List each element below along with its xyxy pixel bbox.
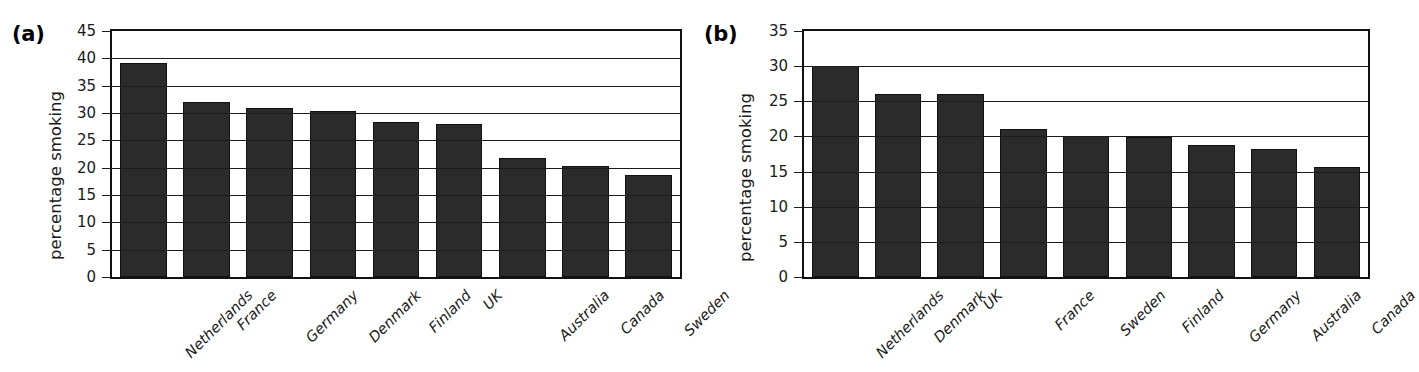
- y-axis-tick-mark: [102, 277, 110, 278]
- bar[interactable]: [246, 108, 293, 277]
- x-axis-label-slot: Netherlands: [802, 281, 865, 371]
- bar[interactable]: [120, 63, 167, 277]
- y-axis-tick-mark: [102, 140, 110, 141]
- gridline: [112, 58, 680, 59]
- gridline: [804, 242, 1368, 243]
- y-axis-tick-mark: [102, 113, 110, 114]
- panel-b-tag: (b): [704, 22, 737, 46]
- gridline: [112, 195, 680, 196]
- panel-a: (a) percentage smoking 05101520253035404…: [0, 0, 694, 372]
- y-axis-tick-mark: [794, 277, 802, 278]
- bar-slot: [1243, 31, 1306, 277]
- gridline: [112, 250, 680, 251]
- x-axis-label-slot: Australia: [491, 281, 555, 371]
- x-axis-label-slot: UK: [428, 281, 492, 371]
- y-axis-tick-mark: [794, 31, 802, 32]
- y-axis-tick-label: 30: [58, 104, 96, 122]
- x-axis-label-slot: Netherlands: [110, 281, 174, 371]
- y-axis-tick-label: 35: [750, 22, 788, 40]
- bar[interactable]: [625, 175, 672, 277]
- bar[interactable]: [937, 94, 983, 277]
- bar-slot: [1117, 31, 1180, 277]
- panel-a-plot-area: [110, 29, 682, 279]
- y-axis-tick-label: 15: [750, 163, 788, 181]
- y-axis-tick-label: 5: [750, 233, 788, 251]
- x-axis-category-label: Canada: [1368, 287, 1418, 337]
- y-axis-tick-mark: [102, 250, 110, 251]
- panel-a-bar-group: [112, 31, 680, 277]
- y-axis-tick-mark: [794, 66, 802, 67]
- y-axis-tick-label: 25: [750, 92, 788, 110]
- bar[interactable]: [1188, 145, 1234, 277]
- x-axis-label-slot: Finland: [1118, 281, 1181, 371]
- y-axis-tick-label: 35: [58, 77, 96, 95]
- gridline: [804, 101, 1368, 102]
- bar-slot: [112, 31, 175, 277]
- x-axis-label-slot: Germany: [1181, 281, 1244, 371]
- x-axis-label-slot: Sweden: [618, 281, 682, 371]
- y-axis-tick-label: 10: [58, 213, 96, 231]
- y-axis-tick-mark: [102, 58, 110, 59]
- bar-slot: [428, 31, 491, 277]
- panel-a-tag: (a): [12, 22, 44, 46]
- bar-slot: [364, 31, 427, 277]
- bar-slot: [992, 31, 1055, 277]
- gridline: [804, 66, 1368, 67]
- bar-slot: [301, 31, 364, 277]
- x-axis-label-slot: Sweden: [1054, 281, 1117, 371]
- bar[interactable]: [436, 124, 483, 277]
- panel-b: (b) percentage smoking 05101520253035 Ne…: [694, 0, 1390, 372]
- x-axis-label-slot: France: [174, 281, 238, 371]
- y-axis-tick-mark: [794, 172, 802, 173]
- y-axis-tick-label: 45: [58, 22, 96, 40]
- y-axis-tick-label: 20: [58, 159, 96, 177]
- panel-b-x-axis-labels: NetherlandsDenmarkUKFranceSwedenFinlandG…: [802, 281, 1370, 371]
- y-axis-tick-label: 20: [750, 127, 788, 145]
- bar-slot: [1055, 31, 1118, 277]
- bar[interactable]: [875, 94, 921, 277]
- y-axis-tick-mark: [102, 195, 110, 196]
- bar-slot: [238, 31, 301, 277]
- x-axis-label-slot: Denmark: [865, 281, 928, 371]
- bar[interactable]: [1251, 149, 1297, 277]
- x-axis-label-slot: Canada: [1307, 281, 1370, 371]
- gridline: [112, 140, 680, 141]
- bar-slot: [929, 31, 992, 277]
- x-axis-label-slot: Finland: [364, 281, 428, 371]
- y-axis-tick-label: 25: [58, 131, 96, 149]
- bar[interactable]: [310, 111, 357, 277]
- gridline: [112, 168, 680, 169]
- panel-b-plot-area: [802, 29, 1370, 279]
- bar[interactable]: [499, 158, 546, 277]
- y-axis-tick-mark: [102, 168, 110, 169]
- y-axis-tick-mark: [794, 101, 802, 102]
- bar[interactable]: [373, 122, 420, 277]
- bar-slot: [1180, 31, 1243, 277]
- bar-slot: [554, 31, 617, 277]
- bar[interactable]: [183, 102, 230, 277]
- y-axis-tick-label: 40: [58, 49, 96, 67]
- bar[interactable]: [1314, 167, 1360, 277]
- panel-a-x-axis-labels: NetherlandsFranceGermanyDenmarkFinlandUK…: [110, 281, 682, 371]
- y-axis-tick-mark: [102, 86, 110, 87]
- x-axis-label-slot: UK: [928, 281, 991, 371]
- bar-slot: [867, 31, 930, 277]
- bar[interactable]: [1000, 129, 1046, 277]
- x-axis-label-slot: Australia: [1244, 281, 1307, 371]
- gridline: [112, 86, 680, 87]
- gridline: [804, 172, 1368, 173]
- gridline: [804, 207, 1368, 208]
- x-axis-label-slot: Germany: [237, 281, 301, 371]
- x-axis-label-slot: Canada: [555, 281, 619, 371]
- y-axis-tick-label: 15: [58, 186, 96, 204]
- y-axis-tick-label: 30: [750, 57, 788, 75]
- bar-slot: [617, 31, 680, 277]
- y-axis-tick-mark: [102, 222, 110, 223]
- y-axis-tick-label: 5: [58, 241, 96, 259]
- y-axis-tick-mark: [794, 136, 802, 137]
- y-axis-tick-mark: [794, 242, 802, 243]
- y-axis-tick-mark: [794, 207, 802, 208]
- y-axis-tick-label: 0: [58, 268, 96, 286]
- bar-slot: [804, 31, 867, 277]
- panel-b-bar-group: [804, 31, 1368, 277]
